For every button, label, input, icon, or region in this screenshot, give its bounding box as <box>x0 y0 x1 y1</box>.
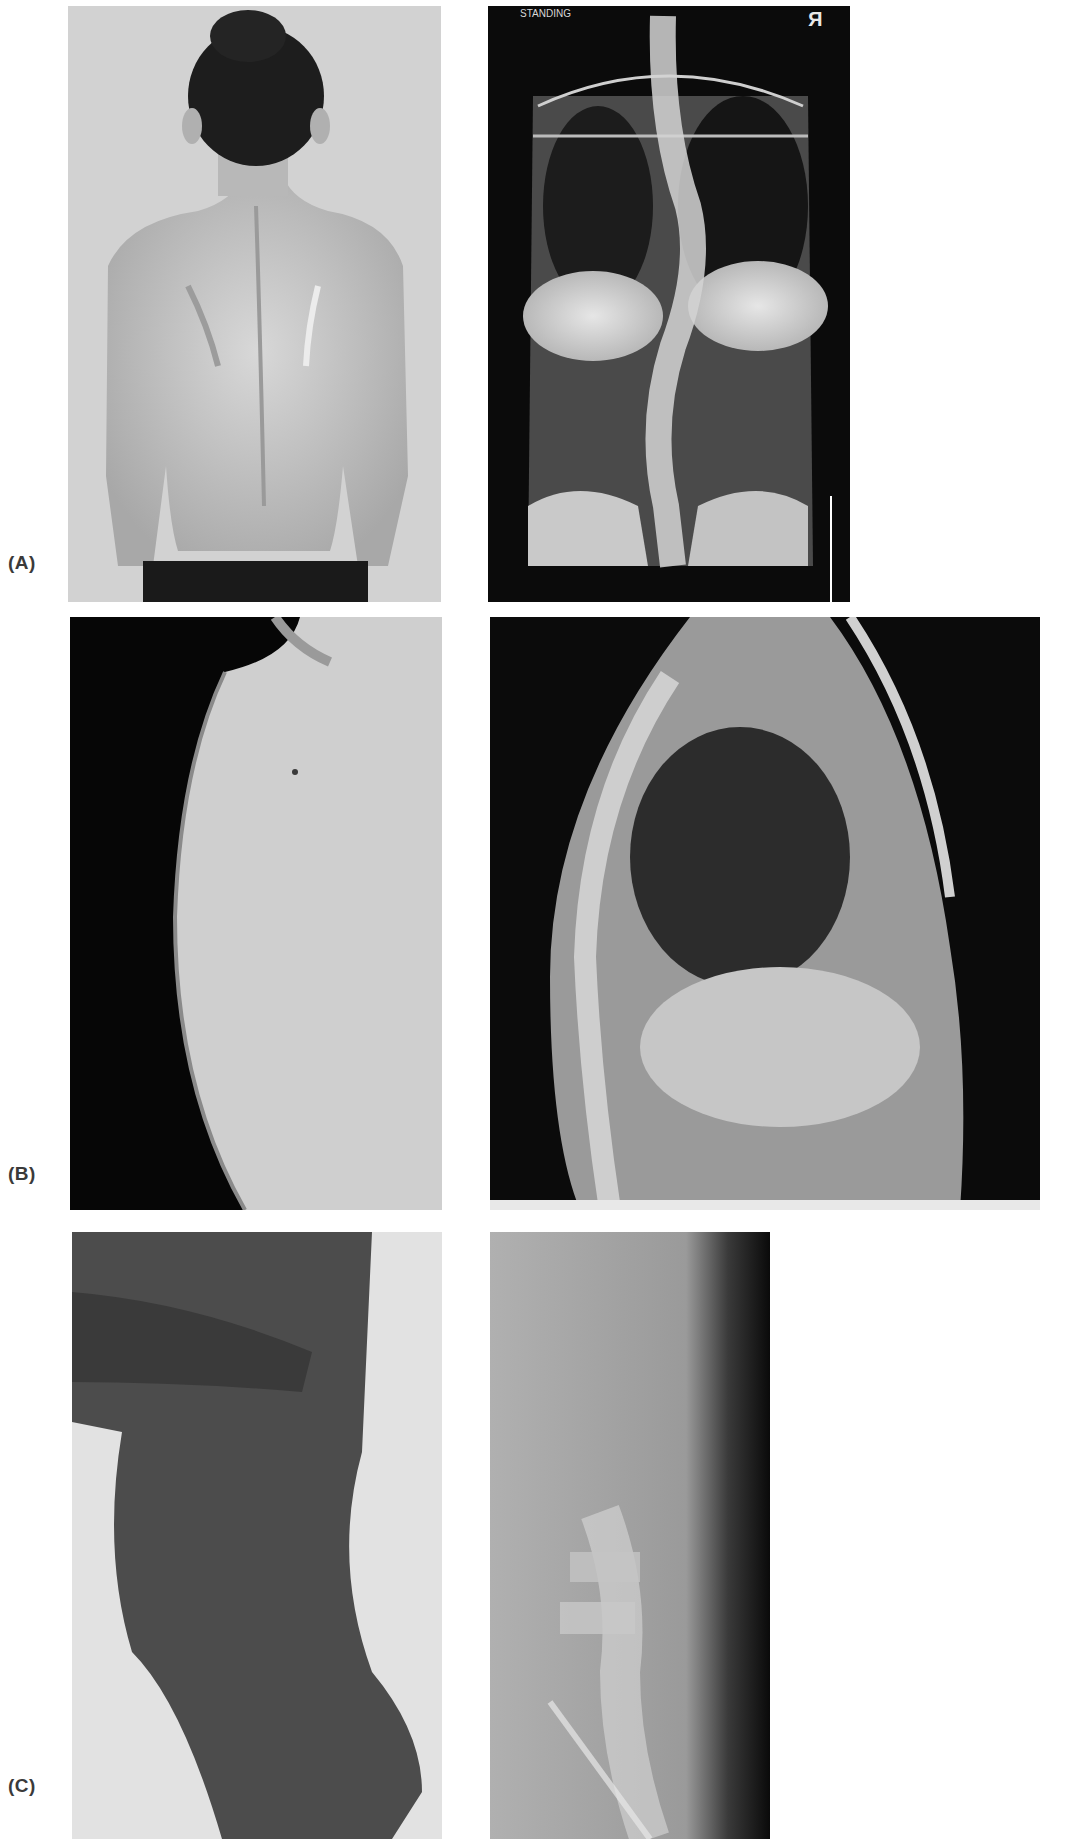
lordosis-side-photo <box>72 1232 442 1839</box>
panel-label-b: (B) <box>8 1163 36 1185</box>
lateral-lumbar-xray-illustration <box>490 1232 770 1839</box>
lateral-lumbar-radiograph <box>490 1232 770 1839</box>
panel-label-c: (C) <box>8 1775 36 1797</box>
standing-back-photo <box>68 6 441 602</box>
kyphosis-side-photo <box>70 617 442 1210</box>
lateral-thoracic-xray-illustration <box>490 617 1040 1210</box>
lateral-thoracic-radiograph <box>490 617 1040 1210</box>
ap-standing-radiograph: STANDING R <box>488 6 850 602</box>
back-photo-illustration <box>68 6 441 602</box>
panel-label-a: (A) <box>8 552 36 574</box>
ap-xray-illustration <box>488 6 850 602</box>
xray-side-marker: R <box>808 8 822 31</box>
xray-view-label: STANDING <box>520 8 571 19</box>
lordosis-photo-illustration <box>72 1232 442 1839</box>
kyphosis-photo-illustration <box>70 617 442 1210</box>
